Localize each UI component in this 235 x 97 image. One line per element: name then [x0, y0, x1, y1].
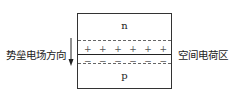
minus-charge: −: [114, 57, 122, 66]
depletion-top-boundary: [78, 40, 171, 41]
p-region-label: p: [78, 70, 171, 81]
negative-charges: − − − − − −: [84, 57, 167, 66]
positive-charges: + + + + + +: [84, 45, 167, 54]
field-direction-label: 势垒电场方向: [6, 47, 66, 62]
plus-charge: +: [159, 45, 167, 54]
plus-charge: +: [144, 45, 152, 54]
minus-charge: −: [159, 57, 167, 66]
n-region-label: n: [78, 20, 171, 31]
space-charge-region-label: 空间电荷区: [178, 47, 228, 62]
depletion-bottom-boundary: [78, 63, 171, 64]
plus-charge: +: [84, 45, 92, 54]
minus-charge: −: [99, 57, 107, 66]
minus-charge: −: [84, 57, 92, 66]
plus-charge: +: [114, 45, 122, 54]
minus-charge: −: [144, 57, 152, 66]
junction-box: n + + + + + + − − − − − − p: [77, 13, 172, 89]
metallurgical-junction: [78, 54, 171, 55]
plus-charge: +: [129, 45, 137, 54]
plus-charge: +: [99, 45, 107, 54]
minus-charge: −: [129, 57, 137, 66]
arrow-down-icon: [68, 38, 74, 66]
